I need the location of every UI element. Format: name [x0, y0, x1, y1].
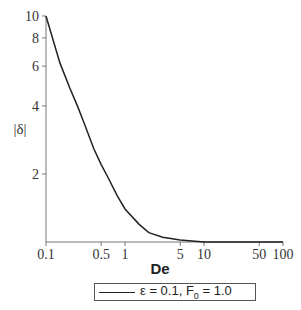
- series-line: [46, 16, 283, 242]
- legend-line-swatch: [99, 292, 135, 293]
- y-tick-label: 6: [32, 59, 39, 74]
- y-tick-label: 10: [25, 9, 39, 24]
- y-tick-label: 8: [32, 31, 39, 46]
- axes: 0.10.5151050100246810: [25, 9, 294, 262]
- x-tick-label: 10: [197, 247, 211, 262]
- x-tick-label: 5: [177, 247, 184, 262]
- y-tick-label: 2: [32, 167, 39, 182]
- x-tick-label: 100: [273, 247, 294, 262]
- x-tick-label: 0.1: [37, 247, 55, 262]
- legend-label: ε = 0.1, F0 = 1.0: [140, 283, 232, 301]
- legend: ε = 0.1, F0 = 1.0: [94, 283, 256, 301]
- y-axis-label: |δ|: [13, 121, 26, 137]
- x-tick-label: 0.5: [92, 247, 110, 262]
- chart: 0.10.5151050100246810 De |δ|: [0, 0, 301, 310]
- x-tick-label: 1: [122, 247, 129, 262]
- x-tick-label: 50: [252, 247, 266, 262]
- x-axis-label: De: [150, 260, 169, 277]
- y-tick-label: 4: [32, 99, 39, 114]
